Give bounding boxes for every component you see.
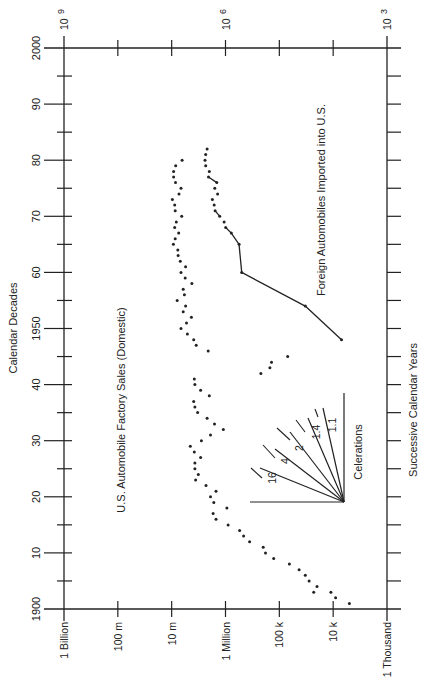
domestic-data-point — [186, 333, 189, 336]
domestic-data-point — [192, 400, 195, 403]
domestic-data-point — [212, 501, 215, 504]
decade-label: 90 — [30, 98, 42, 110]
decade-label: 30 — [30, 435, 42, 447]
chart-axes — [44, 36, 401, 621]
import-data-point — [216, 192, 219, 195]
foreign-series-label: Foreign Automobiles Imported into U.S. — [315, 104, 327, 296]
import-data-point — [207, 176, 210, 179]
celeration-leader — [251, 468, 262, 478]
domestic-data-point — [268, 366, 271, 369]
domestic-data-point — [189, 445, 192, 448]
domestic-data-point — [174, 237, 177, 240]
domestic-data-point — [193, 378, 196, 381]
import-data-point — [240, 271, 243, 274]
domestic-data-point — [192, 338, 195, 341]
celerations-label: Celerations — [352, 424, 364, 480]
domestic-data-point — [207, 349, 210, 352]
time-axis-title: Calendar Decades — [7, 282, 19, 374]
celeration-leader — [277, 428, 290, 440]
value-label: 10 k — [327, 621, 339, 642]
domestic-data-point — [242, 535, 245, 538]
import-data-point — [214, 209, 217, 212]
decade-label: 2000 — [30, 36, 42, 60]
domestic-data-point — [176, 299, 179, 302]
domestic-data-point — [185, 321, 188, 324]
domestic-data-point — [304, 574, 307, 577]
domestic-data-point — [177, 254, 180, 257]
domestic-data-point — [312, 591, 315, 594]
value-tick-labels: 1 Billion100 m10 m1 Million100 k10 k1 Th… — [58, 621, 393, 677]
power-label: 103 — [379, 9, 393, 30]
domestic-data-point — [200, 439, 203, 442]
power-exponent: 6 — [218, 9, 228, 14]
import-data-point — [206, 148, 209, 151]
value-label: 1 Million — [220, 622, 232, 661]
domestic-data-point — [175, 220, 178, 223]
decade-label: 80 — [30, 154, 42, 166]
domestic-data-point — [238, 529, 241, 532]
domestic-data-point — [227, 523, 230, 526]
domestic-data-point — [209, 434, 212, 437]
domestic-data-point — [176, 249, 179, 252]
domestic-data-point — [199, 389, 202, 392]
domestic-data-point — [180, 271, 183, 274]
domestic-data-point — [259, 372, 262, 375]
import-data-point — [213, 187, 216, 190]
domestic-data-point — [193, 467, 196, 470]
domestic-data-point — [348, 602, 351, 605]
domestic-data-point — [171, 198, 174, 201]
domestic-data-point — [215, 490, 218, 493]
import-data-point — [224, 226, 227, 229]
domestic-data-point — [288, 563, 291, 566]
import-data-point — [304, 305, 307, 308]
celeration-leader — [296, 420, 305, 432]
value-label: 10 m — [166, 622, 178, 646]
celeration-chart: Calendar Decades Successive Calendar Yea… — [0, 0, 440, 684]
domestic-data-point — [213, 422, 216, 425]
decade-label: 40 — [30, 378, 42, 390]
decade-label: 70 — [30, 210, 42, 222]
domestic-data-point — [264, 551, 267, 554]
domestic-data-point — [206, 417, 209, 420]
import-data-point — [204, 153, 207, 156]
domestic-series-label: U.S. Automobile Factory Sales (Domestic) — [115, 307, 127, 512]
power-tick-labels: 109106103 — [56, 9, 393, 30]
domestic-data-point — [174, 164, 177, 167]
power-base: 10 — [220, 18, 232, 30]
domestic-data-point — [205, 484, 208, 487]
domestic-data-point — [222, 428, 225, 431]
domestic-data-point — [316, 585, 319, 588]
decade-label: 1900 — [30, 597, 42, 621]
power-base: 10 — [381, 18, 393, 30]
decade-label: 10 — [30, 547, 42, 559]
import-data-point — [340, 338, 343, 341]
domestic-data-point — [209, 495, 212, 498]
domestic-data-point — [193, 383, 196, 386]
domestic-data-point — [248, 540, 251, 543]
domestic-data-point — [180, 187, 183, 190]
import-data-point — [223, 220, 226, 223]
domestic-data-point — [184, 277, 187, 280]
power-exponent: 3 — [379, 9, 389, 14]
power-base: 10 — [58, 18, 70, 30]
power-exponent: 9 — [56, 9, 66, 14]
domestic-data-point — [174, 181, 177, 184]
domestic-data-point — [184, 305, 187, 308]
domestic-data-point — [329, 591, 332, 594]
value-label: 1 Billion — [58, 622, 70, 659]
domestic-data-point — [194, 479, 197, 482]
domestic-data-point — [208, 394, 211, 397]
domestic-data-point — [225, 507, 228, 510]
domestic-data-point — [334, 596, 337, 599]
secondary-axis-title: Successive Calendar Years — [407, 343, 419, 477]
decade-tick-labels: 1900102030401950607080902000 — [30, 36, 42, 621]
import-segment — [242, 272, 306, 306]
value-label: 100 m — [112, 622, 124, 651]
import-data-point — [230, 232, 233, 235]
domestic-data-point — [193, 462, 196, 465]
domestic-data-point — [262, 546, 265, 549]
celeration-value: 1.4 — [310, 425, 322, 440]
import-data-point — [211, 198, 214, 201]
power-label: 109 — [56, 9, 70, 30]
import-segment — [239, 244, 242, 272]
